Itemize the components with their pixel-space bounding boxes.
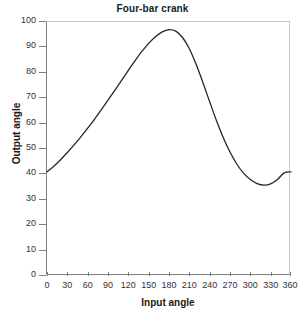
y-axis-tick-label: 0 [31, 269, 36, 279]
data-series-curve [47, 22, 291, 276]
y-axis-tick-mark [39, 173, 46, 174]
x-axis-tick-mark [290, 272, 291, 276]
y-axis-tick-label: 80 [26, 66, 36, 76]
y-axis-tick-mark [39, 199, 46, 200]
x-axis-tick-mark [189, 272, 190, 276]
x-axis-tick-mark [88, 272, 89, 276]
x-axis-tick-mark [108, 272, 109, 276]
x-axis-tick-mark [47, 272, 48, 276]
y-axis-tick-label: 90 [26, 40, 36, 50]
y-axis-tick-mark [39, 275, 46, 276]
y-axis-tick-mark [39, 72, 46, 73]
x-axis-tick-mark [271, 272, 272, 276]
y-axis-tick-label: 70 [26, 91, 36, 101]
y-axis-tick-mark [39, 250, 46, 251]
x-axis-tick-label: 360 [278, 280, 302, 290]
x-axis-tick-mark [250, 272, 251, 276]
x-axis-tick-mark [210, 272, 211, 276]
y-axis-tick-label: 100 [21, 15, 36, 25]
x-axis-tick-mark [149, 272, 150, 276]
chart-figure: Four-bar crank Output angle 100908070605… [0, 0, 305, 316]
y-axis-tick-mark [39, 46, 46, 47]
plot-area: 0306090120150180210240270300330360 [46, 21, 290, 275]
y-axis-tick-mark [39, 123, 46, 124]
x-axis-tick-mark [230, 272, 231, 276]
x-axis-tick-mark [128, 272, 129, 276]
y-axis-tick-label: 30 [26, 193, 36, 203]
y-axis-tick-mark [39, 97, 46, 98]
x-axis-title: Input angle [46, 297, 290, 308]
y-axis-title: Output angle [11, 74, 22, 194]
y-axis-tick-mark [39, 148, 46, 149]
y-axis-tick-label: 60 [26, 117, 36, 127]
y-axis-tick-label: 10 [26, 244, 36, 254]
y-axis-tick-mark [39, 224, 46, 225]
y-axis-tick-label: 40 [26, 167, 36, 177]
y-axis-tick-mark [39, 21, 46, 22]
x-axis-tick-mark [169, 272, 170, 276]
y-axis-tick-label: 20 [26, 218, 36, 228]
x-axis-tick-mark [67, 272, 68, 276]
curve-path [47, 30, 291, 185]
chart-title: Four-bar crank [0, 3, 305, 14]
y-axis-tick-label: 50 [26, 142, 36, 152]
